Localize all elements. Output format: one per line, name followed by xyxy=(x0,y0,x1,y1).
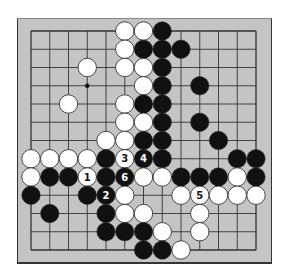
black-stone xyxy=(153,131,171,149)
black-stone xyxy=(134,95,152,113)
move-number-label: 5 xyxy=(196,190,203,201)
hoshi-point xyxy=(85,84,89,88)
white-stone xyxy=(172,241,190,259)
white-stone xyxy=(116,131,134,149)
white-stone xyxy=(191,223,209,241)
white-stone xyxy=(191,204,209,222)
black-stone xyxy=(153,113,171,131)
white-stone xyxy=(172,186,190,204)
move-number-label: 1 xyxy=(84,172,91,183)
black-stone xyxy=(191,77,209,95)
black-stone xyxy=(172,40,190,58)
white-stone xyxy=(134,58,152,76)
black-stone xyxy=(78,186,96,204)
white-stone xyxy=(116,40,134,58)
black-stone: 2 xyxy=(97,186,115,204)
white-stone xyxy=(78,150,96,168)
black-stone xyxy=(247,168,265,186)
move-number-label: 2 xyxy=(103,190,110,201)
black-stone xyxy=(134,223,152,241)
board-grid: 341625 xyxy=(0,0,288,278)
black-stone xyxy=(209,168,227,186)
white-stone xyxy=(134,204,152,222)
black-stone xyxy=(153,95,171,113)
black-stone xyxy=(209,131,227,149)
white-stone xyxy=(116,22,134,40)
black-stone xyxy=(22,186,40,204)
black-stone xyxy=(153,58,171,76)
white-stone: 1 xyxy=(78,168,96,186)
black-stone xyxy=(153,22,171,40)
white-stone xyxy=(116,58,134,76)
black-stone xyxy=(134,131,152,149)
white-stone xyxy=(134,113,152,131)
white-stone xyxy=(22,150,40,168)
black-stone xyxy=(41,168,59,186)
black-stone xyxy=(247,150,265,168)
black-stone xyxy=(191,168,209,186)
white-stone xyxy=(116,95,134,113)
white-stone xyxy=(78,58,96,76)
black-stone xyxy=(97,223,115,241)
black-stone xyxy=(97,150,115,168)
black-stone xyxy=(97,204,115,222)
black-stone: 4 xyxy=(134,150,152,168)
white-stone xyxy=(247,186,265,204)
white-stone xyxy=(59,95,77,113)
white-stone: 5 xyxy=(191,186,209,204)
white-stone xyxy=(134,77,152,95)
white-stone xyxy=(116,186,134,204)
black-stone xyxy=(59,168,77,186)
black-stone xyxy=(97,168,115,186)
black-stone xyxy=(153,241,171,259)
black-stone xyxy=(134,40,152,58)
black-stone xyxy=(153,150,171,168)
white-stone xyxy=(153,168,171,186)
black-stone: 6 xyxy=(116,168,134,186)
white-stone: 3 xyxy=(116,150,134,168)
white-stone xyxy=(41,150,59,168)
white-stone xyxy=(228,168,246,186)
move-number-label: 4 xyxy=(140,153,147,164)
black-stone xyxy=(228,150,246,168)
white-stone xyxy=(22,168,40,186)
white-stone xyxy=(153,223,171,241)
white-stone xyxy=(228,186,246,204)
move-number-label: 6 xyxy=(121,172,128,183)
black-stone xyxy=(41,204,59,222)
black-stone xyxy=(191,113,209,131)
black-stone xyxy=(172,168,190,186)
white-stone xyxy=(209,186,227,204)
white-stone xyxy=(116,113,134,131)
black-stone xyxy=(153,77,171,95)
black-stone xyxy=(134,241,152,259)
white-stone xyxy=(116,204,134,222)
black-stone xyxy=(116,223,134,241)
white-stone xyxy=(134,22,152,40)
white-stone xyxy=(134,168,152,186)
black-stone xyxy=(153,40,171,58)
move-number-label: 3 xyxy=(121,153,128,164)
white-stone xyxy=(97,131,115,149)
white-stone xyxy=(59,150,77,168)
